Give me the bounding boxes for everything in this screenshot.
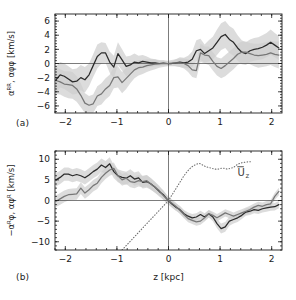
xtick-label: −2 xyxy=(59,117,72,127)
panel-b: (b) −2−10121050−5−10−αᴿφ, αφᴿ [km/s]z [k… xyxy=(0,145,296,300)
xtick-label: −1 xyxy=(110,117,123,127)
xtick-label: 0 xyxy=(166,117,172,127)
xtick-label: 0 xyxy=(166,254,172,264)
ytick-label: 10 xyxy=(39,154,51,164)
ytick-label: −6 xyxy=(37,101,51,111)
x-axis-title: z [kpc] xyxy=(153,272,183,282)
ytick-label: −10 xyxy=(31,237,50,247)
ytick-label: 0 xyxy=(44,196,50,206)
xtick-label: 2 xyxy=(269,117,275,127)
xtick-label: 1 xyxy=(217,117,223,127)
ytick-label: 0 xyxy=(44,59,50,69)
y-axis-title: −αᴿφ, αφᴿ [km/s] xyxy=(6,164,16,236)
ytick-label: −2 xyxy=(37,73,50,83)
y-axis-title: αᴿᴿ, αφφ [km/s] xyxy=(6,31,16,96)
ytick-label: −4 xyxy=(37,87,51,97)
ytick-label: 6 xyxy=(44,16,50,26)
xtick-label: −2 xyxy=(59,254,72,264)
panel-b-tag: (b) xyxy=(16,272,29,282)
xtick-label: 1 xyxy=(217,254,223,264)
panel-a-tag: (a) xyxy=(16,118,29,128)
xtick-label: 2 xyxy=(269,254,275,264)
xtick-label: −1 xyxy=(110,254,123,264)
panel-b-plot: −2−10121050−5−10−αᴿφ, αφᴿ [km/s]z [kpc]U… xyxy=(0,145,296,300)
ytick-label: 5 xyxy=(44,175,50,185)
ytick-label: −5 xyxy=(37,216,50,226)
ytick-label: 4 xyxy=(44,30,50,40)
ytick-label: 2 xyxy=(44,45,50,55)
figure-root: (a) −2−10126420−2−4−6αᴿᴿ, αφφ [km/s] (b)… xyxy=(0,0,296,300)
panel-a: (a) −2−10126420−2−4−6αᴿᴿ, αφφ [km/s] xyxy=(0,0,296,145)
panel-a-plot: −2−10126420−2−4−6αᴿᴿ, αφφ [km/s] xyxy=(0,0,296,145)
uz-annotation: Uz xyxy=(238,167,250,181)
